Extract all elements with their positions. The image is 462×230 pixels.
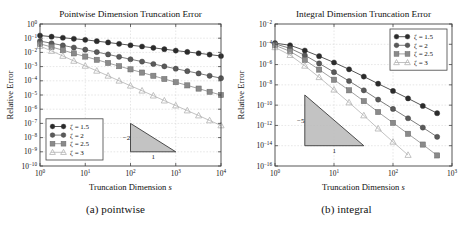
data-point-marker bbox=[185, 69, 190, 74]
data-point-marker bbox=[405, 116, 410, 121]
data-point-marker bbox=[173, 48, 178, 53]
data-point-marker bbox=[94, 68, 100, 74]
tick-label: 102 bbox=[388, 168, 398, 178]
data-point-marker bbox=[60, 43, 65, 48]
tick-label: 101 bbox=[329, 168, 339, 178]
data-point-marker bbox=[331, 77, 336, 82]
data-point-marker bbox=[61, 133, 66, 138]
chart-pointwise: Pointwise Dimension Truncation Error−211… bbox=[0, 0, 231, 205]
chart-title: Pointwise Dimension Truncation Error bbox=[59, 9, 202, 19]
data-point-marker bbox=[139, 87, 145, 93]
data-point-marker bbox=[94, 39, 99, 44]
data-point-marker bbox=[420, 103, 425, 108]
tick-label: 10−14 bbox=[256, 140, 272, 150]
data-point-marker bbox=[420, 142, 425, 147]
tick-label: 102 bbox=[126, 168, 136, 178]
data-point-marker bbox=[139, 70, 144, 75]
tick-label: 10−4 bbox=[24, 75, 37, 85]
data-point-marker bbox=[317, 61, 322, 66]
data-point-marker bbox=[361, 74, 366, 79]
data-point-marker bbox=[317, 67, 322, 72]
data-point-marker bbox=[83, 54, 88, 59]
tick-label: 10−8 bbox=[24, 132, 37, 142]
data-point-marker bbox=[71, 36, 76, 41]
data-point-marker bbox=[49, 34, 54, 39]
data-point-marker bbox=[361, 99, 366, 104]
data-point-marker bbox=[161, 97, 167, 103]
data-point-marker bbox=[61, 124, 66, 129]
data-point-marker bbox=[376, 81, 381, 86]
data-point-marker bbox=[106, 40, 111, 45]
legend-entry-label: ζ = 3 bbox=[70, 149, 84, 157]
data-point-marker bbox=[151, 61, 156, 66]
data-point-marker bbox=[207, 73, 212, 78]
data-point-marker bbox=[207, 117, 213, 123]
tick-label: 100 bbox=[27, 19, 37, 29]
legend-entry-label: ζ = 2.5 bbox=[70, 140, 90, 148]
data-point-marker bbox=[139, 59, 144, 64]
tick-label: 10−1 bbox=[24, 33, 37, 43]
data-point-marker bbox=[128, 57, 133, 62]
data-point-marker bbox=[405, 43, 410, 48]
tick-label: 100 bbox=[35, 168, 45, 178]
data-point-marker bbox=[302, 53, 307, 58]
data-point-marker bbox=[346, 78, 351, 83]
legend-entry-label: ζ = 1.5 bbox=[414, 33, 434, 41]
legend-entry-label: ζ = 2 bbox=[70, 132, 84, 140]
y-axis-label: Relative Error bbox=[236, 70, 246, 119]
data-point-marker bbox=[394, 34, 399, 39]
data-point-marker bbox=[173, 80, 178, 85]
data-point-marker bbox=[106, 52, 111, 57]
data-point-marker bbox=[196, 86, 201, 91]
data-point-marker bbox=[50, 124, 55, 129]
chart-title: Integral Dimension Truncation Error bbox=[296, 9, 431, 19]
data-point-marker bbox=[50, 141, 55, 146]
tick-label: 100 bbox=[270, 168, 280, 178]
legend-entry-label: ζ = 2 bbox=[414, 42, 428, 50]
tick-label: 10−12 bbox=[256, 120, 272, 130]
data-point-marker bbox=[117, 41, 122, 46]
data-point-marker bbox=[435, 153, 440, 158]
slope-label: −5 bbox=[297, 117, 305, 125]
tick-label: 10−2 bbox=[24, 47, 37, 57]
panel-pointwise: Pointwise Dimension Truncation Error−211… bbox=[0, 0, 231, 230]
data-point-marker bbox=[173, 66, 178, 71]
data-point-marker bbox=[162, 76, 167, 81]
tick-label: 104 bbox=[216, 168, 226, 178]
legend-entry-label: ζ = 2.5 bbox=[414, 50, 434, 58]
panel-integral: Integral Dimension Truncation Error−5110… bbox=[231, 0, 462, 230]
slope-label: −2 bbox=[123, 134, 131, 142]
data-point-marker bbox=[435, 134, 440, 139]
tick-label: 10−9 bbox=[24, 146, 37, 156]
data-point-marker bbox=[94, 49, 99, 54]
data-point-marker bbox=[405, 96, 410, 101]
data-point-marker bbox=[71, 51, 76, 56]
data-point-marker bbox=[435, 111, 440, 116]
data-point-marker bbox=[376, 109, 381, 114]
data-point-marker bbox=[376, 97, 381, 102]
tick-label: 10−5 bbox=[24, 90, 37, 100]
data-point-marker bbox=[83, 37, 88, 42]
data-point-marker bbox=[185, 49, 190, 54]
data-point-marker bbox=[361, 88, 366, 93]
tick-label: 10−6 bbox=[24, 104, 37, 114]
slope-base-label: 1 bbox=[333, 147, 337, 155]
data-point-marker bbox=[317, 54, 322, 59]
chart-integral: Integral Dimension Truncation Error−5110… bbox=[231, 0, 462, 205]
slope-triangle-annotation: −51 bbox=[297, 95, 364, 155]
tick-label: 10−7 bbox=[24, 118, 37, 128]
tick-label: 103 bbox=[171, 168, 181, 178]
data-point-marker bbox=[71, 58, 77, 64]
data-point-marker bbox=[83, 47, 88, 52]
data-point-marker bbox=[331, 70, 336, 75]
tick-label: 10−2 bbox=[259, 19, 272, 29]
data-point-marker bbox=[185, 83, 190, 88]
data-point-marker bbox=[106, 60, 111, 65]
data-point-marker bbox=[60, 35, 65, 40]
tick-label: 101 bbox=[80, 168, 90, 178]
data-point-marker bbox=[60, 53, 66, 59]
x-axis-label: Truncation Dimension s bbox=[89, 182, 172, 192]
data-point-marker bbox=[196, 51, 201, 56]
data-point-marker bbox=[390, 88, 395, 93]
data-point-marker bbox=[151, 73, 156, 78]
